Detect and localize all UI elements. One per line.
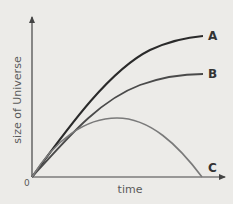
chart-plot-area bbox=[0, 0, 233, 204]
series-b-line bbox=[32, 74, 203, 177]
series-a-line bbox=[32, 36, 203, 177]
y-axis-label: size of Universe bbox=[11, 56, 24, 143]
x-axis-label: time bbox=[118, 183, 143, 196]
series-c-line bbox=[32, 118, 202, 177]
series-b-label: B bbox=[208, 67, 217, 81]
series-c-label: C bbox=[208, 161, 217, 175]
chart-canvas: size of Universe time 0 A B C bbox=[0, 0, 233, 204]
series-a-label: A bbox=[208, 29, 217, 43]
origin-label: 0 bbox=[24, 178, 30, 188]
